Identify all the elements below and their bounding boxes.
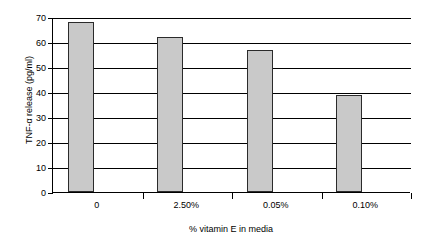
y-axis-tick-label: 50 xyxy=(26,64,46,73)
plot-area xyxy=(52,18,410,193)
y-axis-tick-label: 60 xyxy=(26,39,46,48)
x-axis-tick-label: 0 xyxy=(52,200,142,211)
y-axis-tick-mark xyxy=(48,118,53,119)
y-axis-tick-label: 70 xyxy=(26,14,46,23)
y-axis-tick-label: 20 xyxy=(26,139,46,148)
y-axis-tick-mark xyxy=(48,68,53,69)
y-axis-tick-mark xyxy=(48,18,53,19)
x-axis-tick-mark xyxy=(411,193,412,199)
y-axis-tick-mark xyxy=(48,93,53,94)
x-axis-tick-label: 0.05% xyxy=(231,200,321,211)
x-axis-tick-labels: 02.50%0.05%0.10% xyxy=(52,200,410,212)
y-axis-tick-mark xyxy=(48,168,53,169)
y-axis-tick-label: 40 xyxy=(26,89,46,98)
bar-chart: TNF-α release (pg/ml) 010203040506070 02… xyxy=(0,0,430,243)
bar xyxy=(68,22,94,192)
y-axis-tick-mark xyxy=(48,143,53,144)
y-axis-tick-label: 10 xyxy=(26,164,46,173)
gridline xyxy=(53,43,411,44)
y-axis-tick-label: 30 xyxy=(26,114,46,123)
bar xyxy=(157,37,183,192)
x-axis-tick-label: 2.50% xyxy=(141,200,231,211)
y-axis-tick-label: 0 xyxy=(26,189,46,198)
x-axis-tick-mark xyxy=(143,193,144,199)
gridline xyxy=(53,68,411,69)
y-axis-tick-mark xyxy=(48,193,53,194)
bar xyxy=(336,95,362,193)
gridline xyxy=(53,93,411,94)
gridline xyxy=(53,18,411,19)
bar xyxy=(247,50,273,193)
x-axis-title: % vitamin E in media xyxy=(52,224,410,235)
y-axis-tick-mark xyxy=(48,43,53,44)
x-axis-tick-mark xyxy=(322,193,323,199)
x-axis-tick-mark xyxy=(232,193,233,199)
y-axis-tick-labels: 010203040506070 xyxy=(26,11,46,193)
x-axis-tick-label: 0.10% xyxy=(320,200,410,211)
